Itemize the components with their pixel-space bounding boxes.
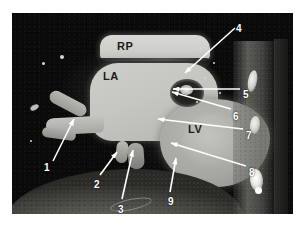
callout-number-3[interactable]: 3 [118, 205, 124, 215]
lung-speckle-4 [213, 62, 215, 64]
lung-speckle-3 [199, 47, 202, 50]
callout-number-6[interactable]: 6 [233, 112, 239, 122]
callout-number-5[interactable]: 5 [243, 90, 249, 100]
lung-speckle-8 [30, 140, 32, 142]
lung-speckle-7 [196, 101, 198, 103]
descending-vessel-structure [127, 142, 145, 169]
callout-number-2[interactable]: 2 [94, 180, 100, 190]
bone-cortex-highlight [255, 187, 262, 194]
lung-speckle-6 [219, 92, 221, 94]
callout-number-4[interactable]: 4 [236, 24, 242, 34]
anatomy-label-lv[interactable]: LV [188, 124, 202, 135]
lung-speckle-2 [42, 62, 45, 65]
anatomy-label-la[interactable]: LA [103, 71, 119, 82]
lung-speckle-1 [60, 55, 64, 59]
lung-speckle-5 [204, 77, 206, 79]
anatomy-label-rp[interactable]: RP [117, 41, 133, 52]
callout-number-8[interactable]: 8 [249, 168, 255, 178]
figure-root: 123456789RPLALV [0, 0, 306, 226]
callout-number-9[interactable]: 9 [168, 197, 174, 207]
callout-number-1[interactable]: 1 [44, 163, 50, 173]
ct-scan-image[interactable] [12, 13, 293, 214]
valve-calcification [180, 85, 193, 95]
callout-number-7[interactable]: 7 [246, 131, 252, 141]
outer-body-wall [274, 39, 288, 214]
